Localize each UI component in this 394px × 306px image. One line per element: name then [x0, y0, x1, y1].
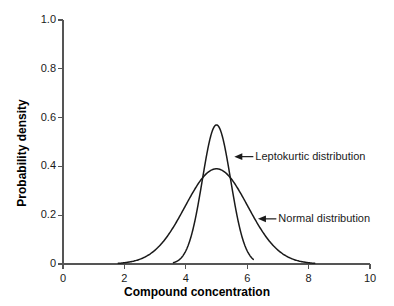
annotation-arrow: [234, 153, 253, 160]
arrow-head-icon: [258, 215, 266, 222]
annotation-arrow: [258, 215, 276, 222]
y-axis-ticks: [58, 20, 63, 264]
x-tick-label: 6: [227, 273, 267, 284]
x-axis-ticks: [63, 264, 370, 269]
y-axis-title: Probability density: [16, 0, 34, 306]
annotation-normal: Normal distribution: [278, 213, 370, 224]
x-tick-label: 8: [289, 273, 329, 284]
annotation-arrows: [234, 153, 276, 222]
x-tick-label: 10: [350, 273, 390, 284]
arrow-head-icon: [234, 153, 242, 160]
x-tick-label: 2: [104, 273, 144, 284]
annotation-leptokurtic: Leptokurtic distribution: [255, 151, 365, 162]
x-tick-label: 0: [43, 273, 83, 284]
chart-figure: 00.20.40.60.81.0 0246810 Compound concen…: [0, 0, 394, 306]
x-axis-title: Compound concentration: [0, 286, 394, 298]
x-tick-label: 4: [166, 273, 206, 284]
